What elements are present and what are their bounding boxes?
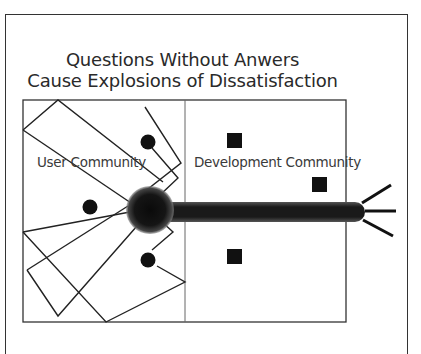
dissatisfaction-sphere [126,186,174,234]
developer-square [227,133,242,148]
user-dot [83,200,98,215]
developer-square [227,249,242,264]
developer-square [312,177,327,192]
user-community-label: User Community [37,154,146,170]
development-community-label: Development Community [194,154,361,170]
question-pipe [160,202,365,222]
explosion-spikes-icon [362,185,396,236]
user-dot [141,135,156,150]
user-dot [141,253,156,268]
